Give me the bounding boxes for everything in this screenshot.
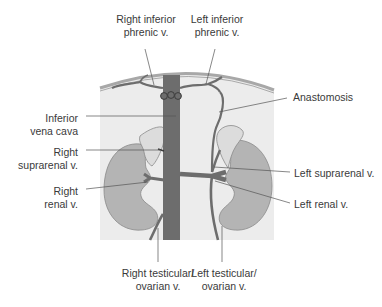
label-left-inferior-phrenic-vein: Left inferior phrenic v. xyxy=(186,13,248,39)
label-left-testicular-ovarian-vein: Left testicular/ ovarian v. xyxy=(180,267,268,293)
label-left-suprarenal-vein: Left suprarenal v. xyxy=(294,167,374,180)
hepatic-vein-opening xyxy=(161,93,168,100)
label-right-renal-vein: Right renal v. xyxy=(10,185,78,211)
label-right-suprarenal-vein: Right suprarenal v. xyxy=(10,146,78,172)
hepatic-vein-opening xyxy=(168,92,175,99)
label-inferior-vena-cava: Inferior vena cava xyxy=(20,112,78,138)
label-anastomosis: Anastomosis xyxy=(293,91,353,104)
label-right-inferior-phrenic-vein: Right inferior phrenic v. xyxy=(110,13,182,39)
hepatic-vein-opening xyxy=(175,93,182,100)
label-left-renal-vein: Left renal v. xyxy=(294,198,348,211)
